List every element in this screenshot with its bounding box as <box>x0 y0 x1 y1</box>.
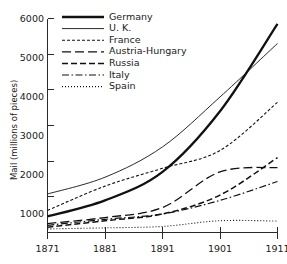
legend-label-italy: Italy <box>109 69 130 80</box>
legend-item-germany[interactable]: Germany <box>62 11 153 22</box>
mail-volume-line-chart: Mail (millions of pieces) 6000 5000 4000… <box>0 0 287 264</box>
y-tick-label: 3000 <box>20 130 44 141</box>
x-tick-label: 1891 <box>150 243 174 254</box>
x-tick-label: 1901 <box>208 243 232 254</box>
chart-canvas: Mail (millions of pieces) 6000 5000 4000… <box>0 0 287 264</box>
y-tick-label: 5000 <box>20 52 44 63</box>
legend-label-france: France <box>109 34 141 45</box>
legend-label-germany: Germany <box>109 11 153 22</box>
y-tick-label: 6000 <box>20 13 44 24</box>
legend-item-spain[interactable]: Spain <box>62 80 136 91</box>
y-tick-label: 2000 <box>20 169 44 180</box>
y-axis-title: Mail (millions of pieces) <box>9 80 19 180</box>
legend-item-italy[interactable]: Italy <box>62 69 130 80</box>
y-axis-tick-labels: 6000 5000 4000 3000 2000 1000 <box>20 13 44 219</box>
legend-item-france[interactable]: France <box>62 34 141 45</box>
series-line-italy <box>48 182 278 226</box>
legend-label-spain: Spain <box>109 80 136 91</box>
legend-item-u-k[interactable]: U. K. <box>62 22 131 33</box>
legend-label-u-k: U. K. <box>109 22 131 33</box>
legend-item-austria-hungary[interactable]: Austria-Hungary <box>62 45 187 56</box>
legend-item-russia[interactable]: Russia <box>62 57 140 68</box>
series-line-france <box>48 102 278 210</box>
x-tick-label: 1911 <box>265 243 287 254</box>
legend-label-austria-hungary: Austria-Hungary <box>109 45 187 56</box>
x-tick-label: 1881 <box>93 243 117 254</box>
legend-label-russia: Russia <box>109 57 140 68</box>
y-tick-label: 1000 <box>20 208 44 219</box>
chart-legend: GermanyU. K.FranceAustria-HungaryRussiaI… <box>62 11 187 92</box>
x-tick-label: 1871 <box>35 243 59 254</box>
y-axis-ticks <box>48 19 54 197</box>
y-tick-label: 4000 <box>20 91 44 102</box>
x-axis-tick-labels: 1871 1881 1891 1901 1911 <box>35 243 287 254</box>
